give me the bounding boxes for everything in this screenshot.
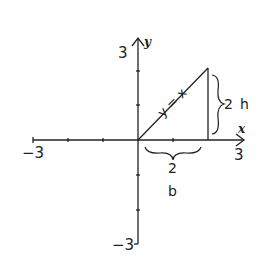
line-label: y = x	[155, 85, 190, 120]
x-axis-label: x	[237, 122, 246, 136]
base-brace	[145, 147, 201, 160]
height-brace	[212, 75, 224, 134]
x-min-label: −3	[22, 144, 44, 162]
y-axis-label: y	[143, 35, 152, 49]
y-max-label: 3	[118, 44, 128, 62]
y-min-label: −3	[112, 236, 134, 254]
base-label: b	[168, 183, 177, 199]
x-max-label: 3	[234, 146, 244, 164]
triangle-diagram: 3 y x 3 −3 −3 y = x 2 h 2 b	[0, 0, 267, 266]
base-value: 2	[168, 160, 177, 176]
height-value: 2	[224, 96, 233, 112]
height-label: h	[240, 96, 249, 112]
